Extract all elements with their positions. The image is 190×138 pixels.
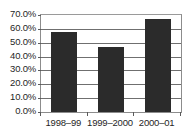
- x-tick-mark: [133, 112, 134, 116]
- y-tick-label: 60.0%: [10, 23, 36, 33]
- bar[interactable]: [98, 47, 124, 112]
- x-tick-mark: [87, 112, 88, 116]
- y-tick-label: 10.0%: [10, 92, 36, 102]
- y-tick-label: 50.0%: [10, 37, 36, 47]
- bar-slot: [88, 15, 135, 112]
- y-axis: 70.0% 60.0% 50.0% 40.0% 30.0% 20.0% 10.0…: [0, 8, 38, 120]
- x-tick-label: 1999–2000: [87, 117, 133, 129]
- x-axis: 1998–99 1999–2000 2000–01: [36, 117, 188, 133]
- plot-area: [40, 14, 182, 113]
- y-tick-label: 30.0%: [10, 64, 36, 74]
- bar-chart: 70.0% 60.0% 50.0% 40.0% 30.0% 20.0% 10.0…: [0, 0, 190, 138]
- bar[interactable]: [145, 19, 171, 112]
- x-tick-mark: [40, 112, 41, 116]
- x-tick-label: 1998–99: [46, 117, 82, 129]
- y-tick-label: 40.0%: [10, 51, 36, 61]
- y-tick-label: 20.0%: [10, 78, 36, 88]
- x-tick-mark: [180, 112, 181, 116]
- bars: [41, 15, 181, 112]
- y-tick-label: 70.0%: [10, 9, 36, 19]
- bar[interactable]: [51, 32, 77, 112]
- bar-slot: [134, 15, 181, 112]
- bar-slot: [41, 15, 88, 112]
- y-tick-label: 0.0%: [15, 106, 36, 116]
- x-tick-label: 2000–01: [139, 117, 175, 129]
